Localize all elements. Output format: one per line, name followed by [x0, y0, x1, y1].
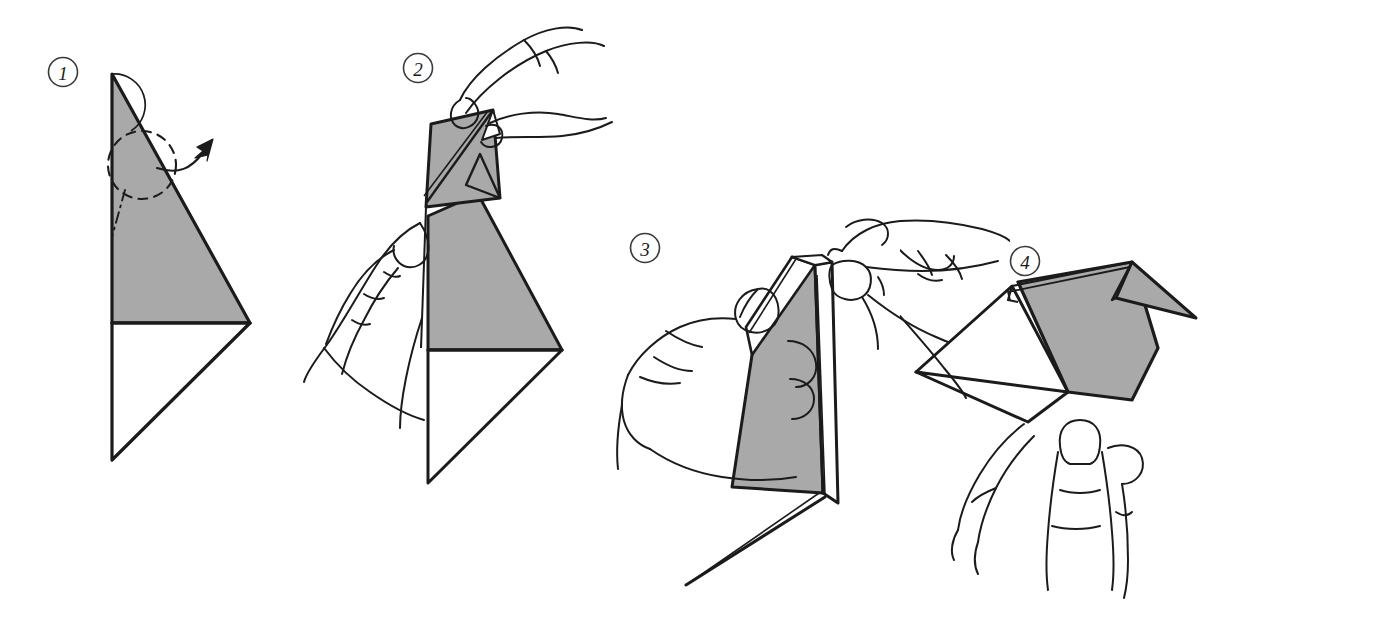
- paper-white-lower-triangle: [428, 350, 562, 483]
- step-1-panel: 1: [45, 35, 305, 480]
- hand-fragment-finger-a: [900, 250, 954, 270]
- step-4-panel: 4: [900, 240, 1320, 600]
- hand-wrist-edge: [324, 348, 424, 420]
- hand-pinky-tip-2: [975, 542, 978, 574]
- step-number-1-badge: 1: [49, 58, 78, 87]
- hand-knuckle-crease-a: [524, 40, 540, 66]
- hand-middle-finger: [490, 112, 606, 123]
- hand-palm-lower-edge: [617, 405, 622, 469]
- lower-hand: [304, 223, 429, 428]
- diagram-page: 1: [0, 0, 1373, 620]
- hand-index-crease-b: [1052, 526, 1100, 529]
- hand-knuckle-b: [654, 357, 692, 371]
- hand-ring-finger-left-2: [978, 436, 1034, 542]
- step-4-illustration: 4: [900, 240, 1320, 600]
- step-1-illustration: 1: [45, 35, 305, 480]
- hand-finger-lower: [342, 268, 398, 374]
- step-number-3-badge: 3: [631, 234, 660, 263]
- hand-upper-finger-tip: [846, 220, 888, 245]
- fold-arrow-head: [195, 139, 213, 161]
- hand-pinky-tip: [952, 530, 958, 560]
- hand-middle-finger: [1108, 445, 1143, 484]
- hand-finger-crease-r: [1116, 512, 1132, 515]
- step-badge-circle: [49, 58, 78, 87]
- hand-index-crease-a: [1060, 490, 1100, 493]
- step-number-4-badge: 4: [1011, 247, 1040, 276]
- hand-knuckle-crease-b: [546, 51, 558, 73]
- step-badge-circle: [631, 234, 660, 263]
- hand-index-curve: [828, 249, 842, 255]
- tail-edge-line-2: [692, 491, 822, 581]
- hand-thumb-top: [393, 223, 428, 267]
- step-badge-circle: [404, 54, 433, 83]
- paper-white-lower-triangle: [112, 323, 250, 460]
- hand-thumb-web: [862, 297, 878, 349]
- step-badge-circle: [1011, 247, 1040, 276]
- hand-ring-finger-left: [958, 424, 1024, 530]
- hand-index-finger-right: [1102, 452, 1114, 590]
- hand-knuckle-a: [666, 331, 702, 347]
- hand-crease-small: [878, 277, 884, 295]
- paper-shaded-upper-triangle: [112, 74, 250, 323]
- hand-middle-finger-lower: [1122, 484, 1128, 598]
- hand-fragment-finger-b: [918, 274, 942, 281]
- hand-crease-left: [640, 377, 680, 384]
- paper-shaded-body: [428, 194, 562, 350]
- step-2-panel: 2: [300, 18, 620, 498]
- hand-middle-finger-lower: [496, 122, 612, 138]
- hand-outline-upper: [628, 318, 736, 375]
- hand-outline-lower: [622, 375, 650, 449]
- hand-index-finger-outline: [1047, 452, 1059, 590]
- hand-thumb-nail-right: [829, 261, 871, 300]
- tail-edge-line: [686, 497, 825, 585]
- hand-index-fingernail: [1060, 420, 1101, 464]
- step-number-2-badge: 2: [404, 54, 433, 83]
- hand-crease-b: [364, 294, 384, 299]
- hand-crease-c: [352, 320, 370, 325]
- supporting-hand: [952, 420, 1143, 598]
- hand-thumb-outline: [304, 223, 420, 382]
- step-2-illustration: 2: [300, 18, 620, 498]
